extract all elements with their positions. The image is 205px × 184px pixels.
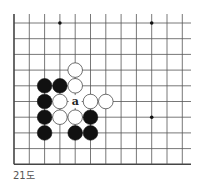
board-labels: a [69,95,82,108]
white-stone [68,110,83,125]
black-stone [37,110,52,125]
white-stone [68,63,83,78]
star-point-icon [150,115,154,119]
black-stone [83,126,98,141]
white-stone [83,94,98,109]
black-stone [37,94,52,109]
black-stone [37,79,52,94]
black-stone [53,79,68,94]
black-stone [37,126,52,141]
star-point-icon [150,21,154,25]
go-board: a [0,0,205,170]
star-point-icon [58,21,62,25]
black-stone [68,126,83,141]
white-stone [53,94,68,109]
white-stone [68,79,83,94]
black-stone [83,110,98,125]
figure-caption: 21도 [13,170,35,182]
white-stone [99,94,114,109]
board-label-text: a [72,95,79,108]
white-stone [53,110,68,125]
